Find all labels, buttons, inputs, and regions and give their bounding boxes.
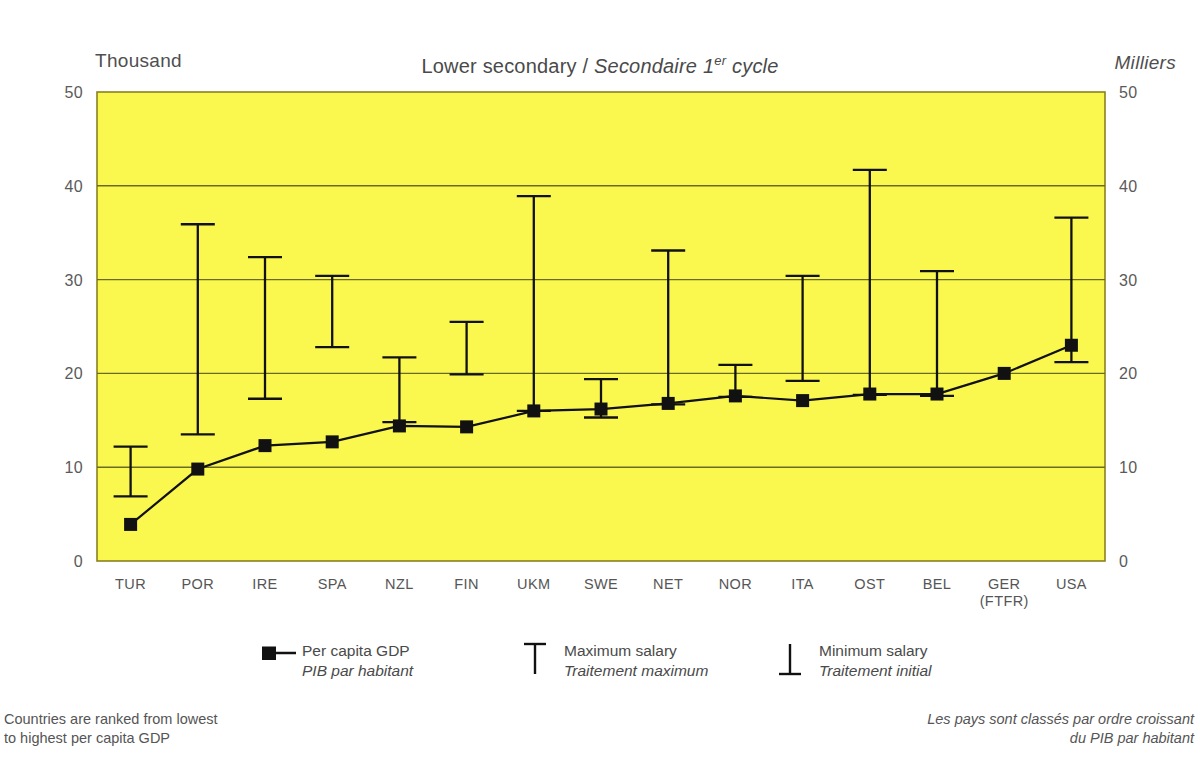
legend-item-minimum-salary: Minimum salary Traitement initial: [775, 640, 932, 681]
legend-label-max-fr: Traitement maximum: [564, 661, 708, 681]
y-axis-tick-label: 0: [74, 553, 83, 570]
x-axis-tick-label: FIN: [454, 576, 479, 592]
y-axis-tick-label: 20: [1119, 365, 1137, 382]
min-salary-tick-icon: [775, 640, 819, 680]
gdp-marker: [124, 518, 137, 531]
y-axis-tick-label: 50: [65, 84, 83, 101]
gdp-marker: [662, 397, 675, 410]
x-axis-tick-label: GER: [988, 576, 1021, 592]
y-axis-tick-label: 10: [1119, 459, 1137, 476]
y-axis-tick-label: 50: [1119, 84, 1137, 101]
x-axis-tick-label: SPA: [318, 576, 347, 592]
gdp-marker: [595, 403, 608, 416]
gdp-marker: [796, 394, 809, 407]
legend-item-maximum-salary: Maximum salary Traitement maximum: [520, 640, 708, 681]
y-axis-tick-label: 30: [65, 272, 83, 289]
gdp-marker-icon: [258, 640, 302, 680]
x-axis-tick-label: UKM: [517, 576, 550, 592]
gdp-marker: [326, 435, 339, 448]
chart-legend: Per capita GDP PIB par habitant Maximum …: [0, 640, 1200, 700]
chart-figure: Thousand Milliers Lower secondary / Seco…: [0, 0, 1200, 758]
y-axis-tick-label: 0: [1119, 553, 1128, 570]
x-axis-tick-label: ITA: [791, 576, 814, 592]
max-salary-tick-icon: [520, 640, 564, 680]
x-axis-tick-label: TUR: [115, 576, 146, 592]
gdp-marker: [729, 389, 742, 402]
legend-label-min-en: Minimum salary: [819, 641, 932, 661]
x-axis-tick-label: NET: [653, 576, 683, 592]
gdp-marker: [863, 388, 876, 401]
x-axis-tick-label: USA: [1056, 576, 1087, 592]
plot-area: 5050404030302020101000TURPORIRESPANZLFIN…: [0, 0, 1200, 640]
legend-label-gdp-en: Per capita GDP: [302, 641, 413, 661]
y-axis-tick-label: 20: [65, 365, 83, 382]
gdp-marker: [998, 367, 1011, 380]
x-axis-tick-label-secondary: (FTFR): [980, 593, 1029, 609]
x-axis-tick-label: OST: [854, 576, 885, 592]
gdp-marker: [527, 404, 540, 417]
legend-item-per-capita-gdp: Per capita GDP PIB par habitant: [258, 640, 413, 681]
x-axis-tick-label: POR: [181, 576, 214, 592]
legend-label-gdp-fr: PIB par habitant: [302, 661, 413, 681]
x-axis-tick-label: BEL: [923, 576, 952, 592]
legend-label-per-capita-gdp: Per capita GDP PIB par habitant: [302, 640, 413, 681]
legend-label-min-fr: Traitement initial: [819, 661, 932, 681]
gdp-marker: [460, 420, 473, 433]
x-axis-tick-label: IRE: [252, 576, 277, 592]
gdp-marker: [931, 388, 944, 401]
legend-label-minimum-salary: Minimum salary Traitement initial: [819, 640, 932, 681]
plot-background: [97, 92, 1105, 561]
x-axis-tick-label: SWE: [584, 576, 618, 592]
x-axis-tick-label: NZL: [385, 576, 414, 592]
y-axis-tick-label: 40: [1119, 178, 1137, 195]
x-axis-tick-label: NOR: [719, 576, 752, 592]
legend-label-max-en: Maximum salary: [564, 641, 708, 661]
y-axis-tick-label: 30: [1119, 272, 1137, 289]
gdp-marker: [1065, 339, 1078, 352]
note-ranking-english: Countries are ranked from lowest to high…: [4, 710, 218, 748]
gdp-marker: [393, 419, 406, 432]
y-axis-tick-label: 10: [65, 459, 83, 476]
gdp-marker: [191, 463, 204, 476]
note-ranking-french: Les pays sont classés par ordre croissan…: [927, 710, 1194, 748]
legend-label-maximum-salary: Maximum salary Traitement maximum: [564, 640, 708, 681]
y-axis-tick-label: 40: [65, 178, 83, 195]
gdp-marker: [259, 439, 272, 452]
